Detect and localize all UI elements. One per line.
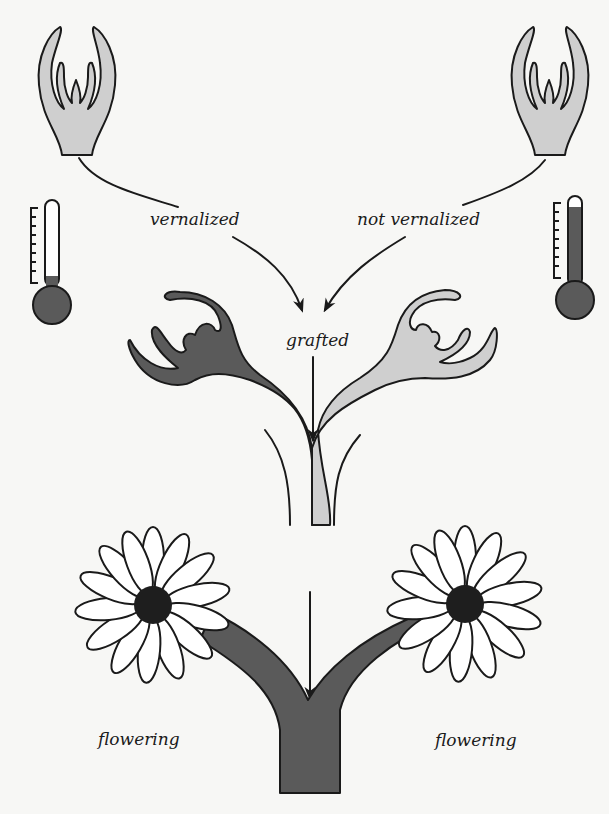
diagram-canvas: vernalized not vernalized bbox=[0, 0, 609, 814]
flower-left-icon bbox=[74, 527, 231, 684]
connector-right bbox=[463, 160, 545, 205]
label-grafted: grafted bbox=[286, 330, 349, 350]
grafted-branch-vernalized bbox=[128, 292, 312, 525]
grafted-branch-not-vernalized bbox=[312, 290, 497, 525]
connector-left bbox=[79, 158, 178, 207]
shoot-apex-left-icon bbox=[39, 27, 116, 155]
label-vernalized: vernalized bbox=[150, 209, 240, 229]
arrow-vernalized-to-grafted bbox=[233, 237, 302, 310]
thermometer-cold-icon bbox=[31, 200, 71, 324]
label-flowering-left: flowering bbox=[96, 729, 180, 749]
label-not-vernalized: not vernalized bbox=[357, 209, 480, 229]
flower-right-icon bbox=[386, 526, 543, 683]
label-flowering-right: flowering bbox=[433, 730, 517, 750]
shoot-apex-right-icon bbox=[512, 27, 589, 155]
arrow-not-vernalized-to-grafted bbox=[325, 237, 405, 310]
thermometer-warm-icon bbox=[554, 196, 594, 319]
